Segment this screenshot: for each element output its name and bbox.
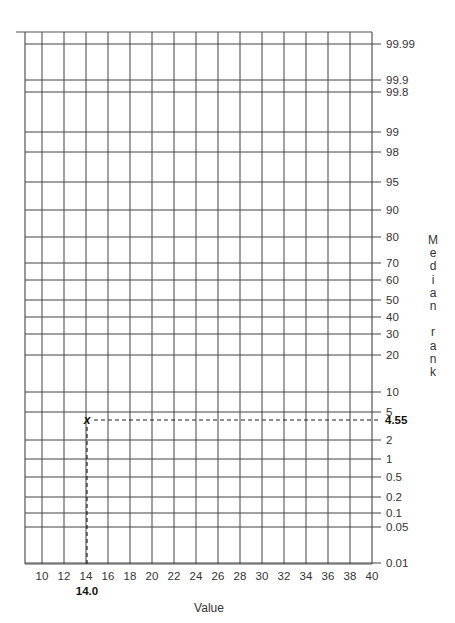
x-annotation-value: 14.0 [76, 585, 98, 597]
reference-lines [87, 420, 380, 564]
y-tick-label: 2 [386, 434, 392, 446]
y-tick-label: 0.5 [386, 471, 402, 483]
y-tick-label: 98 [386, 146, 399, 158]
x-tick-label: 34 [300, 570, 313, 582]
x-tick-label: 24 [190, 570, 203, 582]
x-tick-label: 38 [344, 570, 357, 582]
x-tick-label: 22 [168, 570, 181, 582]
x-tick-label: 36 [322, 570, 335, 582]
data-point-marker: x [83, 413, 92, 427]
y-tick-label: 99 [386, 126, 399, 138]
y-tick-label: 99.8 [386, 86, 408, 98]
y-tick-label: 50 [386, 294, 399, 306]
y-tick-label: 1 [386, 453, 392, 465]
y-tick-label: 99.99 [386, 38, 415, 50]
y-axis-ticks: 99.9999.999.8999895908070605040302010521… [386, 38, 415, 569]
y-tick-label: 30 [386, 328, 399, 340]
probability-plot: 99.9999.999.8999895908070605040302010521… [0, 0, 455, 623]
x-tick-label: 32 [278, 570, 291, 582]
x-tick-label: 14 [80, 570, 93, 582]
y-tick-label: 0.05 [386, 521, 408, 533]
y-tick-label: 0.01 [386, 557, 408, 569]
x-tick-label: 28 [234, 570, 247, 582]
x-tick-label: 12 [58, 570, 71, 582]
y-tick-label: 0.2 [386, 491, 402, 503]
x-axis-ticks: 10121416182022242628303234363840 [36, 570, 379, 582]
y-tick-label: 80 [386, 231, 399, 243]
y-tick-label: 90 [386, 204, 399, 216]
y-tick-label: 99.9 [386, 74, 408, 86]
y-tick-label: 95 [386, 176, 399, 188]
plot-grid [16, 32, 381, 564]
x-tick-label: 40 [366, 570, 379, 582]
y-tick-label: 40 [386, 311, 399, 323]
x-tick-label: 18 [124, 570, 137, 582]
y-tick-label: 60 [386, 274, 399, 286]
x-tick-label: 20 [146, 570, 159, 582]
y-tick-label: 70 [386, 257, 399, 269]
y-tick-label: 20 [386, 349, 399, 361]
y-tick-label: 0.1 [386, 507, 402, 519]
y-axis-title: M e d i a n r a n k [426, 234, 440, 379]
x-tick-label: 30 [256, 570, 269, 582]
y-annotation-value: 4.55 [385, 414, 408, 426]
x-tick-label: 16 [102, 570, 115, 582]
x-axis-title: Value [194, 601, 224, 615]
x-tick-label: 26 [212, 570, 225, 582]
y-tick-label: 10 [386, 386, 399, 398]
x-tick-label: 10 [36, 570, 49, 582]
